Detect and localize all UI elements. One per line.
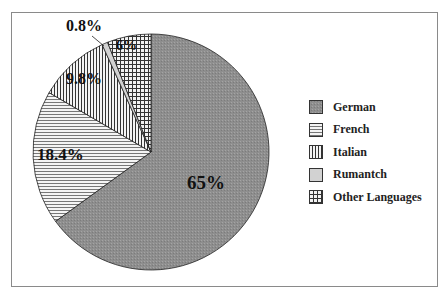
swatch-italian-icon (309, 145, 323, 159)
swatch-other-icon (309, 190, 323, 204)
legend-label: German (333, 100, 376, 115)
slice-label-other: 6% (116, 38, 137, 54)
slice-label-french: 18.4% (37, 145, 84, 165)
legend-item-other-languages: Other Languages (309, 186, 422, 209)
leader-line (92, 36, 104, 46)
slice-label-italian: 9.8% (66, 70, 102, 88)
legend-item-german: German (309, 96, 422, 119)
legend-label: Italian (333, 145, 367, 160)
slice-label-german: 65% (187, 172, 225, 194)
legend-item-italian: Italian (309, 141, 422, 164)
legend-label: Other Languages (333, 190, 422, 205)
legend-label: French (333, 122, 369, 137)
swatch-rumantch-icon (309, 168, 323, 182)
legend-item-french: French (309, 119, 422, 142)
legend: German French Italian Rumantch Other Lan… (309, 96, 422, 209)
slice-label-rumantch: 0.8% (66, 17, 102, 35)
legend-label: Rumantch (333, 167, 387, 182)
swatch-french-icon (309, 123, 323, 137)
legend-item-rumantch: Rumantch (309, 164, 422, 187)
swatch-german-icon (309, 100, 323, 114)
